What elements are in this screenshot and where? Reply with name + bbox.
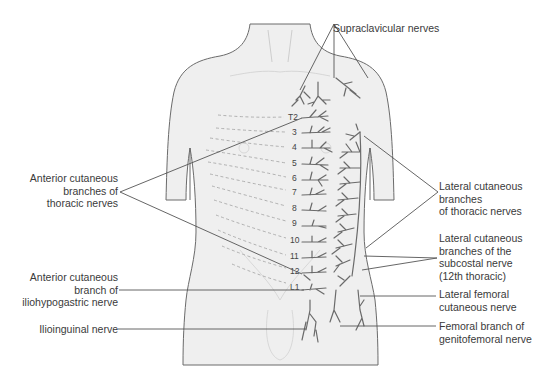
label-line: Femoral branch of bbox=[439, 320, 532, 333]
label-line: Lateral cutaneous bbox=[439, 180, 522, 193]
label-line: subcostal nerve bbox=[439, 257, 522, 270]
label-line: Anterior cutaneous bbox=[30, 172, 118, 185]
label-line: branch of bbox=[22, 284, 118, 297]
label-supraclavicular-nerves: Supraclavicular nerves bbox=[333, 22, 439, 35]
label-line: Lateral cutaneous bbox=[439, 232, 522, 245]
level-11: 11 bbox=[290, 251, 299, 261]
label-text: Ilioinguinal nerve bbox=[39, 323, 118, 335]
label-line: Lateral femoral bbox=[439, 288, 517, 301]
level-5: 5 bbox=[292, 158, 297, 168]
label-line: Anterior cutaneous bbox=[22, 271, 118, 284]
level-4: 4 bbox=[292, 142, 297, 152]
level-L1: L1 bbox=[290, 282, 300, 292]
level-3: 3 bbox=[292, 127, 297, 137]
label-line: iliohypogastric nerve bbox=[22, 296, 118, 309]
label-lateral-femoral-cutaneous: Lateral femoral cutaneous nerve bbox=[439, 288, 517, 313]
nerve-diagram: T2 3 4 5 6 7 8 9 10 11 12 L1 bbox=[0, 0, 549, 378]
label-text: Supraclavicular nerves bbox=[333, 22, 439, 34]
label-line: branches of the bbox=[439, 245, 522, 258]
label-line: thoracic nerves bbox=[30, 197, 118, 210]
level-8: 8 bbox=[292, 203, 297, 213]
level-9: 9 bbox=[292, 218, 297, 228]
label-line: cutaneous nerve bbox=[439, 301, 517, 314]
label-line: of thoracic nerves bbox=[439, 205, 522, 218]
label-femoral-branch-genitofemoral: Femoral branch of genitofemoral nerve bbox=[439, 320, 532, 345]
label-ilioinguinal-nerve: Ilioinguinal nerve bbox=[39, 323, 118, 336]
label-line: branches bbox=[439, 193, 522, 206]
label-line: branches of bbox=[30, 185, 118, 198]
label-lateral-cutaneous-thoracic: Lateral cutaneous branches of thoracic n… bbox=[439, 180, 522, 218]
label-anterior-cutaneous-iliohypogastric: Anterior cutaneous branch of iliohypogas… bbox=[22, 271, 118, 309]
label-lateral-cutaneous-subcostal: Lateral cutaneous branches of the subcos… bbox=[439, 232, 522, 282]
label-line: (12th thoracic) bbox=[439, 270, 522, 283]
level-7: 7 bbox=[292, 187, 297, 197]
level-6: 6 bbox=[292, 173, 297, 183]
label-line: genitofemoral nerve bbox=[439, 333, 532, 346]
level-10: 10 bbox=[290, 235, 300, 245]
label-anterior-cutaneous-thoracic: Anterior cutaneous branches of thoracic … bbox=[30, 172, 118, 210]
